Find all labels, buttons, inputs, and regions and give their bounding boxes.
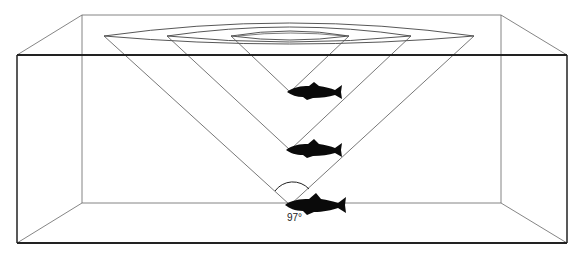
fish-shallow-icon <box>287 82 342 100</box>
angle-label: 97° <box>287 212 302 223</box>
tank-back-face <box>82 15 501 203</box>
surface-windows <box>104 23 474 44</box>
angle-arc <box>275 182 309 191</box>
vision-cones <box>104 36 474 205</box>
fish-middle-icon <box>286 139 342 158</box>
